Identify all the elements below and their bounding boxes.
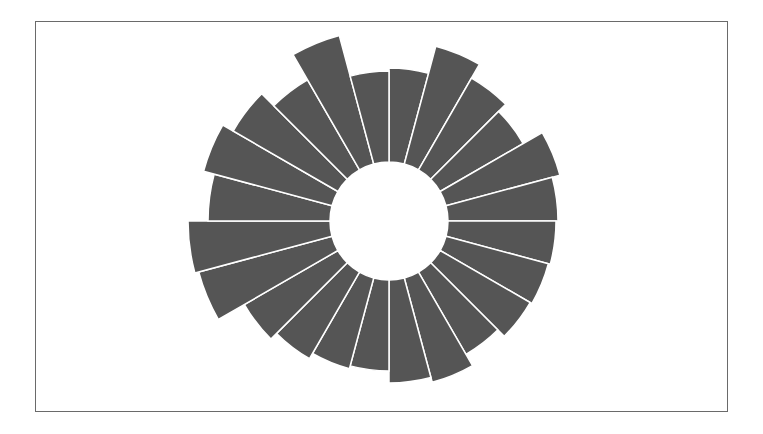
- radial-bar-chart: [0, 0, 763, 434]
- radial-bars: [188, 36, 560, 383]
